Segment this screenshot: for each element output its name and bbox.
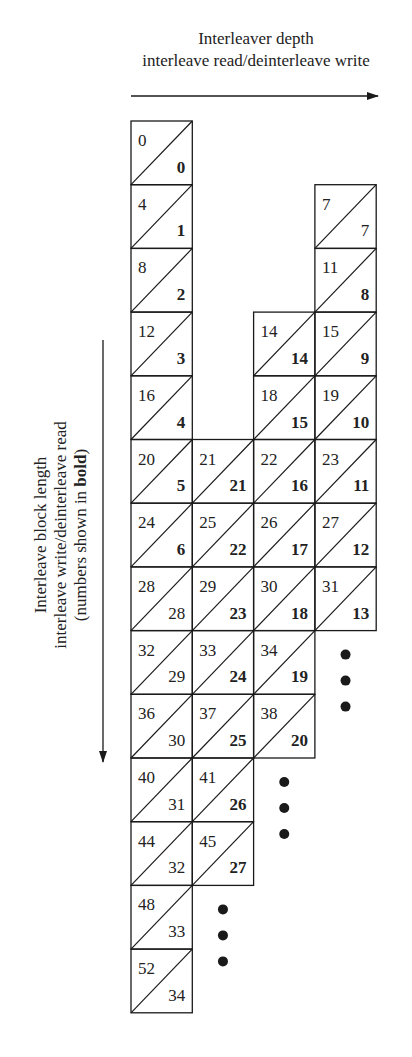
cell-read-index: 24 [230,667,248,686]
cell-read-index: 7 [361,221,370,240]
cell-write-index: 44 [138,832,156,851]
cell-read-index: 9 [361,349,370,368]
grid-cell: 4527 [192,822,253,886]
cell-write-index: 22 [261,450,278,469]
ellipsis-dot-icon [218,904,228,914]
cell-write-index: 15 [322,322,339,341]
grid-cell: 1815 [254,376,315,440]
cell-read-index: 30 [168,731,185,750]
grid-cell: 118 [315,248,376,312]
cell-read-index: 6 [177,540,186,559]
cell-read-index: 0 [177,158,186,177]
cell-read-index: 11 [353,476,369,495]
cell-write-index: 7 [322,195,331,214]
grid-cell: 2311 [315,440,376,504]
cell-write-index: 28 [138,577,155,596]
cell-write-index: 36 [138,704,155,723]
cell-write-index: 0 [138,131,147,150]
cell-write-index: 11 [322,258,338,277]
cell-grid: 0041821231642052462828322936304031443248… [131,121,376,1013]
cell-read-index: 8 [361,285,370,304]
grid-cell: 2522 [192,503,253,567]
grid-cell: 3229 [131,631,192,695]
grid-cell: 4031 [131,758,192,822]
grid-cell: 3725 [192,694,253,758]
cell-read-index: 26 [230,795,247,814]
cell-read-index: 17 [291,540,309,559]
cell-read-index: 3 [177,349,186,368]
grid-cell: 1414 [254,312,315,376]
cell-read-index: 15 [291,413,308,432]
cell-write-index: 8 [138,258,147,277]
cell-read-index: 13 [352,604,369,623]
grid-cell: 5234 [131,949,192,1013]
cell-write-index: 26 [261,513,278,532]
grid-cell: 3018 [254,567,315,631]
grid-cell: 159 [315,312,376,376]
ellipsis-dot-icon [341,650,351,660]
grid-cell: 2121 [192,440,253,504]
cell-read-index: 32 [168,858,185,877]
cell-write-index: 4 [138,195,147,214]
cell-read-index: 16 [291,476,308,495]
grid-cell: 1910 [315,376,376,440]
grid-canvas: 0041821231642052462828322936304031443248… [0,0,412,1057]
cell-write-index: 21 [199,450,216,469]
cell-read-index: 27 [230,858,248,877]
cell-read-index: 19 [291,667,308,686]
grid-cell: 4432 [131,822,192,886]
cell-write-index: 25 [199,513,216,532]
grid-cell: 4126 [192,758,253,822]
ellipsis-dot-icon [279,803,289,813]
cell-write-index: 33 [199,641,216,660]
cell-write-index: 20 [138,450,155,469]
cell-read-index: 34 [168,986,186,1005]
cell-read-index: 10 [352,413,369,432]
cell-write-index: 41 [199,768,216,787]
grid-cell: 77 [315,185,376,249]
ellipsis-dot-icon [279,829,289,839]
cell-read-index: 5 [177,476,186,495]
cell-read-index: 18 [291,604,308,623]
cell-read-index: 22 [230,540,247,559]
cell-read-index: 2 [177,285,186,304]
cell-read-index: 21 [230,476,247,495]
cell-read-index: 28 [168,604,185,623]
ellipsis-dot-icon [341,676,351,686]
cell-write-index: 31 [322,577,339,596]
cell-write-index: 27 [322,513,340,532]
cell-read-index: 33 [168,922,185,941]
grid-cell: 3113 [315,567,376,631]
cell-read-index: 1 [177,221,186,240]
cell-read-index: 14 [291,349,309,368]
cell-write-index: 23 [322,450,339,469]
grid-cell: 2923 [192,567,253,631]
cell-write-index: 37 [199,704,217,723]
cell-write-index: 24 [138,513,156,532]
cell-write-index: 12 [138,322,155,341]
cell-write-index: 32 [138,641,155,660]
cell-write-index: 16 [138,386,155,405]
cell-write-index: 30 [261,577,278,596]
ellipsis-dot-icon [341,702,351,712]
cell-read-index: 4 [177,413,186,432]
cell-read-index: 31 [168,795,185,814]
cell-read-index: 20 [291,731,308,750]
grid-cell: 3419 [254,631,315,695]
cell-write-index: 48 [138,895,155,914]
grid-cell: 3820 [254,694,315,758]
grid-cell: 41 [131,185,192,249]
interleaver-diagram: Interleaver depth interleave read/deinte… [0,0,412,1057]
cell-read-index: 29 [168,667,185,686]
ellipsis-dot-icon [279,777,289,787]
grid-cell: 82 [131,248,192,312]
cell-write-index: 29 [199,577,216,596]
cell-write-index: 52 [138,959,155,978]
grid-cell: 164 [131,376,192,440]
grid-cell: 2712 [315,503,376,567]
grid-cell: 3324 [192,631,253,695]
grid-cell: 246 [131,503,192,567]
cell-write-index: 18 [261,386,278,405]
ellipsis-dot-icon [218,930,228,940]
cell-read-index: 25 [230,731,247,750]
